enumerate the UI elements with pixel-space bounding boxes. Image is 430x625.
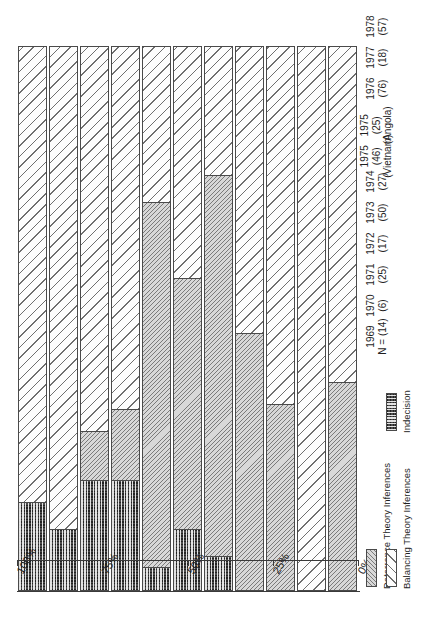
chart-legend: Deterrence Theory InferencesBalancing Th… xyxy=(364,321,426,621)
legend-label-indecision: Indecision xyxy=(401,390,412,433)
category-label-1978: 1978 (57) xyxy=(365,0,388,63)
bar-1978 xyxy=(18,46,47,591)
segment-balancing-1976 xyxy=(81,46,108,432)
segment-balancing-1974 xyxy=(174,46,201,279)
bar-1970 xyxy=(297,46,326,591)
segment-deterrence-1973 xyxy=(205,176,232,558)
legend-swatch-balancing xyxy=(386,549,397,587)
segment-balancing-1978 xyxy=(19,46,46,503)
bar-1971 xyxy=(266,46,295,591)
segment-balancing-1975 xyxy=(143,46,170,203)
plot-area xyxy=(17,46,358,591)
bar-1974 xyxy=(173,46,202,591)
segment-balancing-1970 xyxy=(298,46,325,590)
segment-balancing-1973 xyxy=(205,46,232,176)
segment-deterrence-1976 xyxy=(81,432,108,481)
segment-balancing-1975 xyxy=(112,46,139,410)
segment-balancing-1971 xyxy=(267,46,294,405)
bar-1975 xyxy=(111,46,140,591)
bar-1975 xyxy=(142,46,171,591)
bar-1973 xyxy=(204,46,233,591)
segment-balancing-1977 xyxy=(50,46,77,530)
segment-deterrence-1975 xyxy=(143,203,170,568)
legend-swatch-indecision xyxy=(386,393,397,431)
bar-1976 xyxy=(80,46,109,591)
segment-balancing-1972 xyxy=(236,46,263,334)
legend-label-balancing: Balancing Theory Inferences xyxy=(401,468,412,589)
value-axis: 100%75%50%25%0% xyxy=(0,560,380,625)
legend-swatch-deterrence xyxy=(366,549,377,587)
bar-1977 xyxy=(49,46,78,591)
segment-deterrence-1972 xyxy=(236,334,263,590)
bar-1972 xyxy=(235,46,264,591)
segment-deterrence-1975 xyxy=(112,410,139,481)
segment-deterrence-1974 xyxy=(174,279,201,530)
